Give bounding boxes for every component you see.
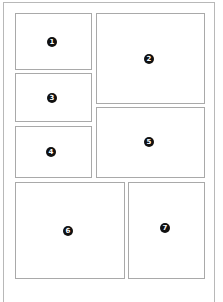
number-badge-5: 5 [144,137,154,147]
number-badge-3: 3 [47,93,57,103]
number-badge-6: 6 [63,226,73,236]
number-badge-4: 4 [46,147,56,157]
number-badge-1: 1 [47,37,57,47]
number-badge-7: 7 [160,223,170,233]
number-badge-2: 2 [144,54,154,64]
